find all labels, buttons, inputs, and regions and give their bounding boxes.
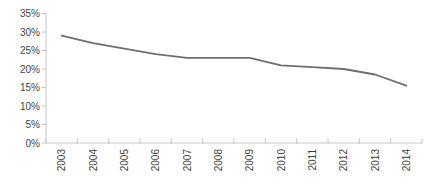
- y-axis-tick-label: 25%: [20, 45, 40, 56]
- y-axis-tick-label: 20%: [20, 64, 40, 75]
- x-axis-tick-label: 2010: [276, 149, 287, 172]
- y-axis-tick-label: 10%: [20, 101, 40, 112]
- x-axis-tick-label: 2005: [119, 149, 130, 172]
- x-axis-tick-label: 2011: [307, 149, 318, 171]
- x-axis-tick-label: 2012: [338, 149, 349, 172]
- y-axis-tick-label: 5%: [26, 119, 41, 130]
- x-axis-tick-label: 2009: [244, 149, 255, 172]
- y-axis-tick-label: 30%: [20, 27, 40, 38]
- line-chart-canvas: 0%5%10%15%20%25%30%35%200320042005200620…: [0, 0, 439, 187]
- y-axis-tick-label: 15%: [20, 82, 40, 93]
- y-axis-tick-label: 35%: [20, 8, 40, 19]
- x-axis-tick-label: 2006: [150, 149, 161, 172]
- x-axis-tick-label: 2008: [213, 149, 224, 172]
- y-axis-tick-label: 0%: [26, 138, 41, 149]
- x-axis-tick-label: 2007: [182, 149, 193, 172]
- line-chart: 0%5%10%15%20%25%30%35%200320042005200620…: [0, 0, 439, 187]
- x-axis-tick-label: 2003: [56, 149, 67, 172]
- x-axis-tick-label: 2014: [401, 149, 412, 172]
- x-axis-tick-label: 2004: [88, 149, 99, 172]
- x-axis-tick-label: 2013: [370, 149, 381, 172]
